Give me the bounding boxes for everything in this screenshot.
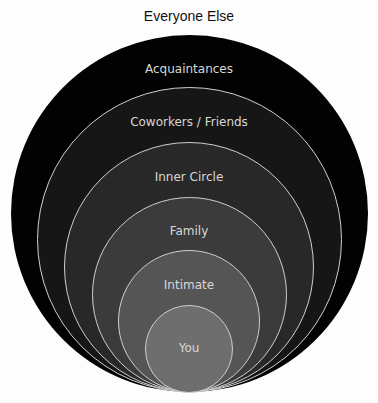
label-you: You xyxy=(0,341,378,355)
label-family: Family xyxy=(0,224,378,238)
diagram-title: Everyone Else xyxy=(0,8,378,24)
label-inner-circle: Inner Circle xyxy=(0,170,378,184)
label-acquaintances: Acquaintances xyxy=(0,62,378,76)
label-coworkers-friends: Coworkers / Friends xyxy=(0,115,378,129)
label-intimate: Intimate xyxy=(0,278,378,292)
